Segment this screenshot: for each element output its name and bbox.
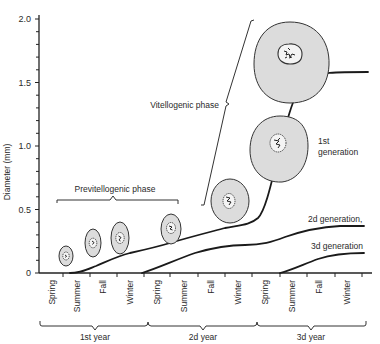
gen1-label-line2: generation	[318, 147, 358, 157]
season-label: Fall	[206, 280, 216, 294]
gen1-label-line1: 1st	[318, 136, 330, 146]
year-brackets: 1st year 2d year 3d year	[40, 321, 366, 342]
oocyte-icon	[161, 214, 181, 244]
year-label-1: 1st year	[80, 332, 110, 342]
season-label: Winter	[233, 280, 243, 305]
x-axis: Spring Summer Fall Winter Spring Summer …	[39, 273, 372, 312]
oocyte-icon	[111, 222, 129, 254]
y-tick-0: 0	[26, 268, 31, 278]
season-label: Fall	[98, 280, 108, 294]
previtellogenic-label: Previtellogenic phase	[75, 184, 156, 194]
oocyte-icon	[59, 246, 73, 266]
year-label-2: 2d year	[189, 332, 218, 342]
oocyte-icon	[254, 22, 329, 103]
y-tick-2-0: 2.0	[18, 14, 31, 24]
y-axis: 0 0.5 1.0 1.5 2.0 Diameter (mm)	[2, 14, 39, 278]
oocyte-icon	[250, 116, 308, 182]
vitellogenic-bracket: Vitellogenic phase	[150, 20, 254, 205]
season-label: Summer	[287, 280, 297, 312]
gen2-label: 2d generation,	[308, 214, 362, 224]
y-tick-1-0: 1.0	[18, 141, 31, 151]
year-label-3: 3d year	[297, 332, 326, 342]
previtellogenic-bracket: Previtellogenic phase	[57, 184, 178, 204]
y-tick-1-5: 1.5	[18, 78, 31, 88]
y-axis-label: Diameter (mm)	[2, 144, 12, 201]
season-label: Spring	[152, 280, 162, 305]
oocyte-illustrations	[59, 22, 329, 266]
season-label: Summer	[179, 280, 189, 312]
season-label: Spring	[260, 280, 270, 305]
oocyte-growth-diagram: 0 0.5 1.0 1.5 2.0 Diameter (mm) Spring S…	[0, 0, 380, 344]
gen3-label: 3d generation	[311, 241, 363, 251]
season-label: Winter	[342, 280, 352, 305]
y-tick-0-5: 0.5	[18, 205, 31, 215]
season-label: Summer	[72, 280, 82, 312]
curve-3d-generation	[280, 253, 364, 273]
oocyte-icon	[211, 179, 249, 223]
season-label: Spring	[47, 280, 57, 305]
season-label: Fall	[314, 280, 324, 294]
oocyte-icon	[85, 229, 101, 257]
season-label: Winter	[125, 280, 135, 305]
vitellogenic-label: Vitellogenic phase	[150, 100, 219, 110]
